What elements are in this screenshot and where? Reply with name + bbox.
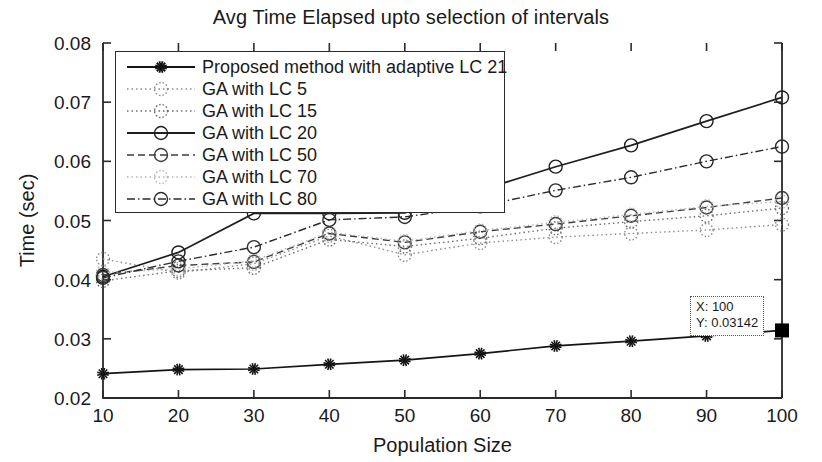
x-tick-label: 10 (92, 405, 113, 426)
y-tick-label: 0.02 (54, 388, 91, 409)
series-marker-6 (549, 184, 562, 197)
legend-marker-icon (124, 123, 198, 143)
series-marker-5 (323, 226, 336, 239)
legend-item-label: GA with LC 70 (202, 167, 317, 188)
x-tick-label: 40 (319, 405, 340, 426)
legend-item[interactable]: GA with LC 50 (116, 144, 504, 166)
data-tip-annotation: X: 100 Y: 0.03142 (690, 296, 764, 336)
legend-marker-icon (124, 167, 198, 187)
legend-item-label: GA with LC 50 (202, 145, 317, 166)
y-tick-label: 0.03 (54, 329, 91, 350)
series-marker-6 (247, 241, 260, 254)
series-marker-1 (700, 223, 713, 236)
series-marker-6 (625, 171, 638, 184)
series-marker-1 (625, 227, 638, 240)
y-tick-label: 0.04 (54, 270, 91, 291)
legend-item-label: GA with LC 20 (202, 123, 317, 144)
legend-item[interactable]: GA with LC 15 (116, 100, 504, 122)
x-tick-label: 50 (394, 405, 415, 426)
y-tick-label: 0.07 (54, 92, 91, 113)
legend-marker-icon (124, 189, 198, 209)
series-line-0 (103, 330, 782, 373)
legend-item[interactable]: GA with LC 20 (116, 122, 504, 144)
legend-item-label: GA with LC 15 (202, 101, 317, 122)
y-axis-title: Time (sec) (16, 174, 38, 268)
legend-item[interactable]: Proposed method with adaptive LC 21 (116, 56, 504, 78)
legend-item[interactable]: GA with LC 80 (116, 188, 504, 210)
x-tick-label: 20 (168, 405, 189, 426)
x-axis-title: Population Size (373, 434, 512, 456)
legend-marker-icon (124, 101, 198, 121)
chart-figure: Avg Time Elapsed upto selection of inter… (0, 0, 822, 462)
legend-item-label: Proposed method with adaptive LC 21 (202, 57, 507, 78)
data-tip-marker (775, 323, 789, 337)
x-tick-label: 100 (766, 405, 798, 426)
x-tick-label: 30 (243, 405, 264, 426)
x-tick-label: 90 (696, 405, 717, 426)
series-marker-5 (172, 263, 185, 276)
x-tick-label: 60 (470, 405, 491, 426)
y-tick-label: 0.08 (54, 33, 91, 54)
y-tick-label: 0.06 (54, 151, 91, 172)
data-tip-y: Y: 0.03142 (696, 315, 758, 331)
legend-item-label: GA with LC 80 (202, 189, 317, 210)
x-tick-label: 70 (545, 405, 566, 426)
series-line-1 (103, 225, 782, 273)
y-tick-label: 0.05 (54, 211, 91, 232)
data-tip-x: X: 100 (696, 299, 758, 315)
legend-item[interactable]: GA with LC 70 (116, 166, 504, 188)
chart-legend: Proposed method with adaptive LC 21GA wi… (115, 51, 505, 213)
series-line-2 (103, 208, 782, 281)
legend-item[interactable]: GA with LC 5 (116, 78, 504, 100)
legend-marker-icon (124, 57, 198, 77)
legend-item-label: GA with LC 5 (202, 79, 307, 100)
legend-marker-icon (124, 145, 198, 165)
legend-marker-icon (124, 79, 198, 99)
x-tick-label: 80 (621, 405, 642, 426)
